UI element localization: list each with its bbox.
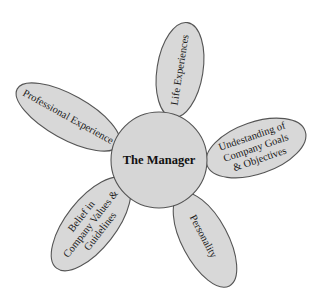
center-label: The Manager [123, 153, 196, 167]
center-node: The Manager [111, 112, 207, 208]
petal-life-experiences: Life Experiences [150, 19, 210, 121]
manager-flower-diagram: Professional Experience Life Experiences… [0, 0, 315, 296]
petal-professional-experience: Professional Experience [7, 70, 130, 165]
petal-understanding-company-goals: Undestanding of Company Goals & Objectiv… [198, 106, 313, 189]
